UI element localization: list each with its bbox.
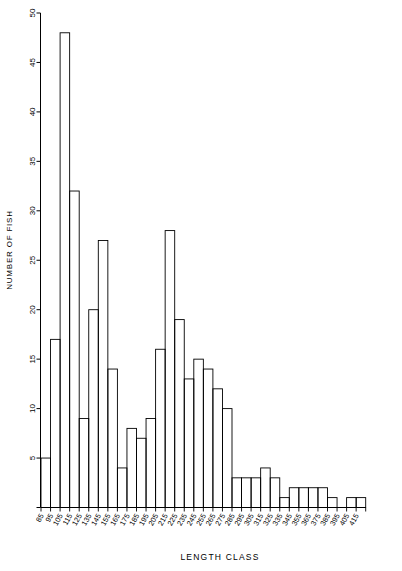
histogram-bar — [289, 488, 299, 508]
histogram-bar — [51, 339, 61, 507]
x-tick-group: 8595105115125135145155165175185195205215… — [34, 508, 366, 528]
histogram-bar — [261, 468, 271, 508]
histogram-bar — [79, 418, 89, 507]
histogram-bar — [89, 310, 99, 508]
histogram-bar — [98, 240, 108, 507]
y-tick-label: 30 — [28, 206, 37, 215]
x-axis-title: LENGTH CLASS — [150, 552, 290, 562]
histogram-bar — [347, 498, 357, 508]
y-tick-label: 40 — [28, 107, 37, 116]
y-tick-label: 5 — [28, 455, 37, 460]
histogram-bar — [299, 488, 309, 508]
y-axis-title: NUMBER OF FISH — [0, 185, 18, 315]
histogram-bar — [108, 369, 118, 507]
y-tick-label: 45 — [28, 57, 37, 66]
histogram-bar — [127, 428, 137, 507]
y-tick-label: 15 — [28, 354, 37, 363]
histogram-bar — [146, 418, 156, 507]
histogram-bar — [356, 498, 366, 508]
x-tick-label: 415 — [347, 512, 361, 527]
histogram-bar — [213, 389, 223, 508]
histogram-bar — [137, 438, 147, 507]
histogram-bar — [328, 498, 338, 508]
histogram-bar — [222, 409, 232, 508]
bar-group — [41, 33, 366, 508]
histogram-bar — [194, 359, 204, 507]
histogram-bar — [232, 478, 242, 508]
y-tick-label: 20 — [28, 305, 37, 314]
histogram-bar — [251, 478, 261, 508]
histogram-bar — [117, 468, 127, 508]
x-axis-title-text: LENGTH CLASS — [180, 552, 259, 562]
histogram-bar — [70, 191, 80, 507]
y-tick-label: 25 — [28, 255, 37, 264]
histogram-bar — [184, 379, 194, 508]
histogram-bar — [156, 349, 166, 507]
y-tick-group: 5101520253035404550 — [28, 8, 41, 507]
y-axis-title-text: NUMBER OF FISH — [5, 210, 14, 290]
histogram-bar — [60, 33, 70, 508]
y-tick-label: 35 — [28, 156, 37, 165]
histogram-bar — [270, 478, 280, 508]
histogram-plot: 5101520253035404550 85951051151251351451… — [0, 0, 402, 571]
histogram-bar — [242, 478, 252, 508]
y-tick-label: 10 — [28, 404, 37, 413]
histogram-bar — [41, 458, 51, 507]
histogram-bar — [175, 320, 185, 508]
histogram-figure: NUMBER OF FISH LENGTH CLASS 510152025303… — [0, 0, 402, 571]
histogram-bar — [308, 488, 318, 508]
histogram-bar — [165, 231, 175, 508]
y-tick-label: 50 — [28, 8, 37, 17]
histogram-bar — [280, 498, 290, 508]
histogram-bar — [318, 488, 328, 508]
histogram-bar — [203, 369, 213, 507]
